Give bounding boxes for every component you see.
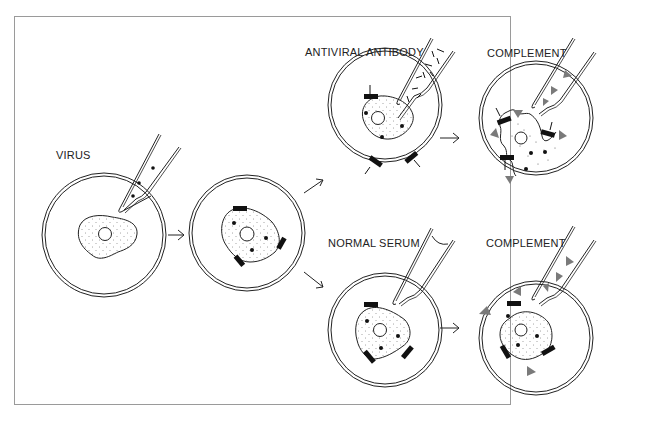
- arrow-up-right-icon: [304, 179, 323, 193]
- virus-particle: [137, 181, 141, 185]
- label-normal-serum: NORMAL SERUM: [328, 237, 420, 249]
- cell-nucleus: [99, 228, 112, 241]
- arrow-down-right-icon: [304, 272, 323, 288]
- virus-particle: [151, 166, 155, 170]
- dish-3: [328, 38, 455, 174]
- dish-5: [328, 228, 455, 387]
- dish-6: [479, 226, 596, 395]
- viral-antigen: [233, 206, 247, 211]
- dish-2: [189, 175, 305, 291]
- dish-4: [479, 38, 596, 184]
- label-complement-bottom: COMPLEMENT: [486, 237, 566, 249]
- arrow-right-icon: [440, 133, 459, 143]
- label-virus: VIRUS: [56, 149, 91, 161]
- antibody: [414, 160, 420, 167]
- antibody: [365, 167, 370, 174]
- pipette-virus: [119, 134, 181, 213]
- label-complement-top: COMPLEMENT: [487, 47, 567, 59]
- arrow-right-icon: [440, 323, 459, 333]
- virus-particle: [131, 194, 135, 198]
- arrow-right-icon: [168, 230, 184, 240]
- diagram-canvas: VIRUS ANTIVIRAL ANTIBODY COMPLEMENT NORM…: [0, 0, 657, 423]
